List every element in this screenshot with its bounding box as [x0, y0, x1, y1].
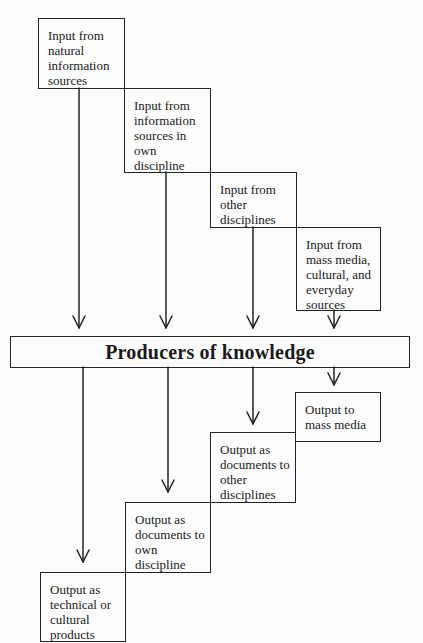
input-box-own-discipline: Input from information sources in own di…	[124, 88, 211, 173]
output-label: Output to mass media	[305, 402, 380, 432]
output-label: Output as documents to own discipline	[135, 512, 210, 572]
output-label: Output as documents to other disciplines	[220, 442, 295, 502]
input-label: Input from information sources in own di…	[134, 98, 210, 173]
input-label: Input from other disciplines	[220, 182, 296, 227]
output-box-other-disciplines: Output as documents to other disciplines	[210, 432, 296, 503]
center-label: Producers of knowledge	[105, 341, 315, 364]
input-box-mass-media-cultural: Input from mass media, cultural, and eve…	[296, 227, 381, 311]
connector-lines	[0, 0, 423, 643]
output-label: Output as technical or cultural products	[50, 582, 125, 642]
input-label: Input from mass media, cultural, and eve…	[306, 237, 380, 312]
output-box-mass-media: Output to mass media	[295, 392, 381, 442]
producers-of-knowledge-bar: Producers of knowledge	[10, 336, 410, 368]
input-label: Input from natural information sources	[48, 28, 124, 88]
input-box-other-disciplines: Input from other disciplines	[210, 172, 297, 228]
input-box-natural-sources: Input from natural information sources	[38, 18, 125, 89]
output-box-technical-cultural: Output as technical or cultural products	[40, 572, 126, 642]
output-box-own-discipline: Output as documents to own discipline	[125, 502, 211, 573]
